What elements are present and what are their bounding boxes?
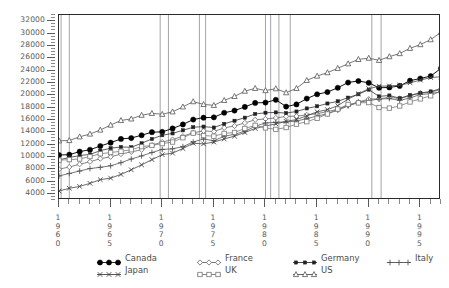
x-tick-label: 1980 xyxy=(259,214,269,248)
data-point xyxy=(150,157,155,162)
data-point xyxy=(294,122,298,126)
data-point xyxy=(129,148,133,152)
data-point xyxy=(336,100,339,103)
data-point xyxy=(405,260,411,266)
y-tick-minor xyxy=(51,36,56,37)
plus-icon xyxy=(386,253,412,264)
x-tick-label: 1960 xyxy=(53,214,63,248)
data-point xyxy=(294,261,297,264)
x-tick-major xyxy=(213,199,214,207)
legend-italy[interactable]: Italy xyxy=(386,253,433,264)
y-tick-minor xyxy=(51,79,56,80)
data-point xyxy=(284,125,288,129)
legend-france[interactable]: France xyxy=(196,253,253,264)
x-tick-minor xyxy=(285,199,286,204)
data-point xyxy=(87,166,93,172)
y-tick-label: 28000 xyxy=(20,41,45,49)
x-tick-major xyxy=(316,199,317,207)
data-point xyxy=(222,125,227,130)
series-line xyxy=(59,91,439,160)
y-tick-minor xyxy=(51,165,56,166)
y-tick-major xyxy=(47,94,55,95)
data-point xyxy=(87,159,92,164)
x-tick-minor xyxy=(68,199,69,204)
data-point xyxy=(149,110,154,115)
data-point xyxy=(98,127,103,132)
data-point xyxy=(418,42,423,47)
x-tick-label: 1990 xyxy=(363,214,373,248)
data-point xyxy=(108,150,112,154)
data-point xyxy=(201,115,206,120)
legend-label: UK xyxy=(225,266,237,275)
y-tick-minor xyxy=(51,51,56,52)
data-point xyxy=(109,147,112,150)
data-point xyxy=(119,149,123,153)
y-tick-minor xyxy=(51,88,56,89)
x-tick-minor xyxy=(326,199,327,204)
x-tick-minor xyxy=(378,199,379,204)
data-point xyxy=(77,149,82,154)
y-tick-minor xyxy=(51,177,56,178)
data-point xyxy=(325,89,330,94)
y-tick-minor xyxy=(51,174,56,175)
data-point xyxy=(438,29,439,34)
filled-square-icon xyxy=(292,253,318,264)
data-point xyxy=(285,111,288,114)
y-tick-minor xyxy=(51,85,56,86)
data-point xyxy=(325,112,329,116)
data-point xyxy=(295,110,298,113)
data-point xyxy=(192,126,195,129)
y-tick-major xyxy=(47,144,55,145)
y-tick-major xyxy=(47,168,55,169)
data-point xyxy=(198,272,202,276)
x-tick-label-digit: 5 xyxy=(414,240,424,249)
x-tick-label: 1985 xyxy=(311,214,321,248)
x-tick-minor xyxy=(151,199,152,204)
data-point xyxy=(223,122,226,125)
legend-uk[interactable]: UK xyxy=(196,265,237,276)
series-line xyxy=(59,68,439,155)
x-tick-minor xyxy=(223,199,224,204)
y-tick-minor xyxy=(51,150,56,151)
data-point xyxy=(274,127,278,131)
series-canada xyxy=(59,66,439,158)
legend-label: Germany xyxy=(321,254,360,263)
data-point xyxy=(150,143,154,147)
y-tick-minor xyxy=(51,23,56,24)
x-tick-minor xyxy=(244,199,245,204)
y-tick-minor xyxy=(51,110,56,111)
data-point xyxy=(335,85,340,90)
y-tick-major xyxy=(47,33,55,34)
x-tick-minor xyxy=(430,199,431,204)
x-axis xyxy=(58,199,440,215)
series-uk xyxy=(59,89,439,163)
data-point xyxy=(356,78,361,83)
y-tick-minor xyxy=(51,184,56,185)
open-diamond-icon xyxy=(196,253,222,264)
legend-canada[interactable]: Canada xyxy=(96,253,157,264)
y-tick-minor xyxy=(51,63,56,64)
legend-label: France xyxy=(225,254,253,263)
y-tick-minor xyxy=(51,66,56,67)
data-point xyxy=(273,97,278,102)
x-tick-minor xyxy=(388,199,389,204)
y-tick-label: 4000 xyxy=(25,189,45,197)
x-tick-minor xyxy=(130,199,131,204)
series-canvas xyxy=(59,15,439,198)
data-point xyxy=(418,97,422,101)
legend-us[interactable]: US xyxy=(292,265,332,276)
legend-germany[interactable]: Germany xyxy=(292,253,360,264)
data-point xyxy=(180,122,185,127)
x-tick-minor xyxy=(234,199,235,204)
y-tick-major xyxy=(47,181,55,182)
x-tick-minor xyxy=(399,199,400,204)
x-tick-minor xyxy=(203,199,204,204)
data-point xyxy=(201,133,205,137)
data-point xyxy=(128,156,134,162)
data-point xyxy=(119,172,124,177)
legend-japan[interactable]: Japan xyxy=(96,265,148,276)
data-point xyxy=(59,158,61,162)
y-tick-minor xyxy=(51,159,56,160)
data-point xyxy=(304,96,309,101)
y-tick-label: 14000 xyxy=(20,127,45,135)
